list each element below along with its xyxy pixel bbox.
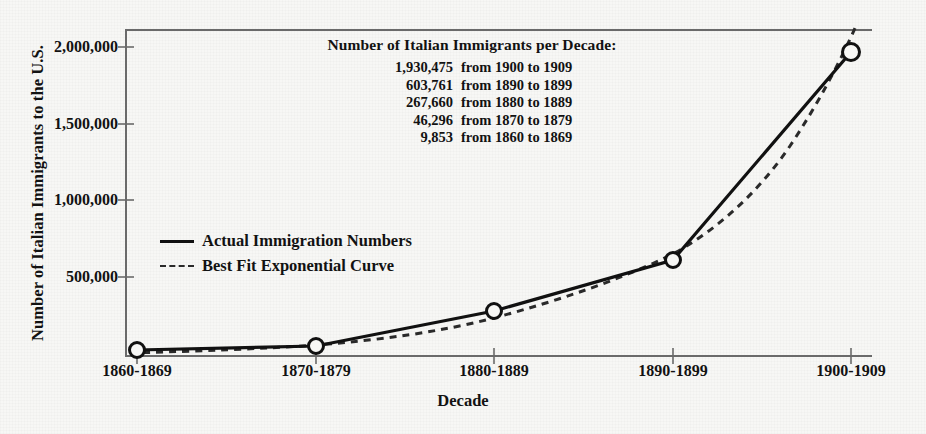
data-point-marker [309, 339, 324, 354]
x-tick-label: 1900-1909 [776, 362, 926, 380]
chart-page: Number of Italian Immigrants to the U.S.… [0, 0, 926, 434]
annotation-period: from 1880 to 1889 [461, 94, 601, 112]
data-point-marker [130, 343, 145, 358]
annotation-count: 267,660 [343, 94, 461, 112]
annotation-row: 1,930,475 from 1900 to 1909 [262, 59, 682, 77]
legend-dashed-line-icon [160, 259, 194, 273]
annotation-count: 603,761 [343, 77, 461, 95]
annotation-row: 603,761 from 1890 to 1899 [262, 77, 682, 95]
x-axis-title: Decade [0, 391, 926, 411]
annotation-period: from 1900 to 1909 [461, 59, 601, 77]
legend-item-best-fit-exponential-curve: Best Fit Exponential Curve [160, 253, 412, 278]
annotation-period: from 1860 to 1869 [461, 129, 601, 147]
legend-label: Best Fit Exponential Curve [202, 256, 394, 276]
annotation-count: 9,853 [343, 129, 461, 147]
annotation-period: from 1890 to 1899 [461, 77, 601, 95]
annotation-count: 1,930,475 [343, 59, 461, 77]
annotation-row: 267,660 from 1880 to 1889 [262, 94, 682, 112]
annotation-row: 9,853 from 1860 to 1869 [262, 129, 682, 147]
x-tick-label: 1890-1899 [598, 362, 748, 380]
x-tick-label: 1880-1889 [419, 362, 569, 380]
x-tick-label: 1870-1879 [241, 362, 391, 380]
chart-legend: Actual Immigration Numbers Best Fit Expo… [160, 228, 412, 278]
data-point-marker [843, 44, 860, 61]
legend-item-actual-immigration-numbers: Actual Immigration Numbers [160, 228, 412, 253]
legend-label: Actual Immigration Numbers [202, 231, 412, 251]
annotation-count: 46,296 [343, 112, 461, 130]
annotation-title: Number of Italian Immigrants per Decade: [262, 36, 682, 54]
data-point-marker [666, 253, 681, 268]
annotation-block: Number of Italian Immigrants per Decade:… [262, 36, 682, 147]
annotation-period: from 1870 to 1879 [461, 112, 601, 130]
annotation-row: 46,296 from 1870 to 1879 [262, 112, 682, 130]
x-tick-label: 1860-1869 [62, 362, 212, 380]
data-point-marker [487, 304, 502, 319]
legend-solid-line-icon [160, 234, 194, 248]
